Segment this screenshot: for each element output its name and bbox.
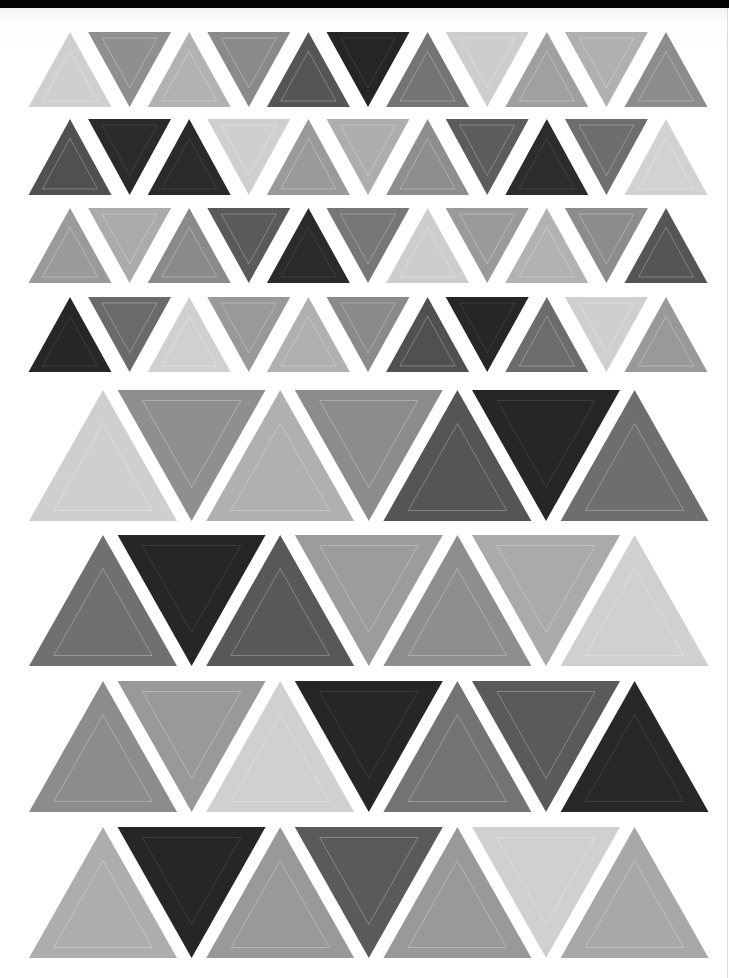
small-row-4 <box>29 297 708 372</box>
large-triangle-rows <box>29 390 709 958</box>
large-row-1 <box>29 390 709 521</box>
small-triangle-rows <box>29 32 708 372</box>
triangle-pattern <box>0 0 729 978</box>
large-row-4 <box>29 827 709 958</box>
large-row-2 <box>29 535 709 666</box>
small-row-1 <box>29 32 708 107</box>
small-row-3 <box>29 208 708 283</box>
large-row-3 <box>29 681 709 812</box>
small-row-2 <box>29 119 708 195</box>
